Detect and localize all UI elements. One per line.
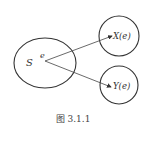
arrow-to-y <box>45 61 111 87</box>
point-label: e <box>40 51 45 60</box>
sample-space-label: S <box>26 57 33 68</box>
figure-caption: 图 3.1.1 <box>56 114 91 124</box>
x-value-label: X(e) <box>112 31 131 41</box>
y-value-label: Y(e) <box>113 81 130 91</box>
sample-space-ellipse <box>14 38 76 88</box>
random-variable-diagram: S e X(e) Y(e) 图 3.1.1 <box>0 0 152 143</box>
